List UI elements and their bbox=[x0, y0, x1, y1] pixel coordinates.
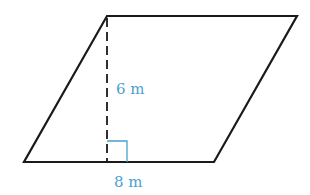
parallelogram-diagram: 6 m 8 m bbox=[0, 0, 310, 195]
height-label: 6 m bbox=[116, 80, 145, 98]
right-angle-marker bbox=[107, 141, 127, 162]
parallelogram-outline bbox=[24, 16, 297, 162]
base-label: 8 m bbox=[114, 173, 143, 191]
